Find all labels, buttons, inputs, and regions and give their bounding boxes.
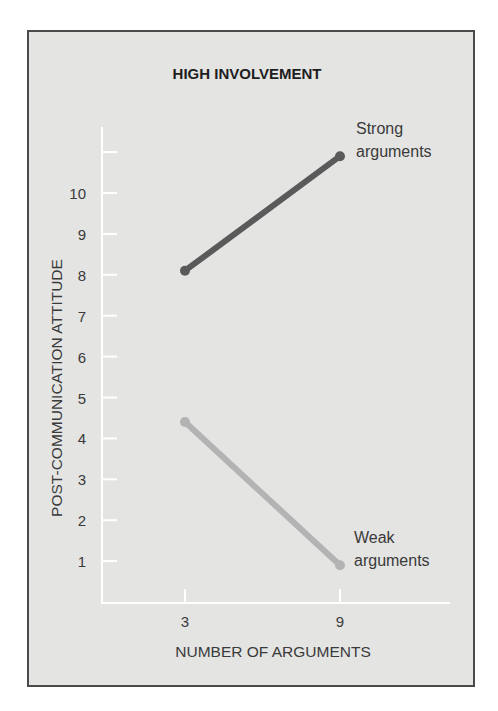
y-tick-label: 8	[78, 267, 86, 284]
axes	[101, 127, 450, 604]
y-tick-label: 6	[78, 349, 86, 366]
data-point-weak-arguments	[335, 560, 345, 570]
x-tick-label: 3	[181, 613, 189, 630]
line-chart: HIGH INVOLVEMENT 12345678910 39 POST-COM…	[0, 0, 498, 711]
y-ticks: 12345678910	[69, 152, 117, 570]
data-point-weak-arguments	[180, 417, 190, 427]
series-label-weak-line1: Weak	[354, 529, 396, 546]
y-tick-label: 10	[69, 185, 86, 202]
y-tick-label: 9	[78, 226, 86, 243]
series-line-strong-arguments	[185, 156, 340, 271]
y-tick-label: 2	[78, 512, 86, 529]
y-tick-label: 5	[78, 390, 86, 407]
data-point-strong-arguments	[335, 151, 345, 161]
series-label-weak-line2: arguments	[354, 552, 430, 569]
x-ticks: 39	[181, 589, 344, 630]
y-tick-label: 3	[78, 471, 86, 488]
y-tick-label: 1	[78, 553, 86, 570]
y-tick-label: 4	[78, 430, 86, 447]
y-tick-label: 7	[78, 308, 86, 325]
series-label-strong-line2: arguments	[356, 143, 432, 160]
x-axis-title: NUMBER OF ARGUMENTS	[175, 643, 370, 660]
series-label-strong-line1: Strong	[356, 120, 403, 137]
series-group	[180, 151, 345, 570]
x-tick-label: 9	[336, 613, 344, 630]
data-point-strong-arguments	[180, 266, 190, 276]
series-line-weak-arguments	[185, 422, 340, 565]
y-axis-title: POST-COMMUNICATION ATTITUDE	[48, 259, 65, 517]
chart-title: HIGH INVOLVEMENT	[173, 65, 322, 82]
